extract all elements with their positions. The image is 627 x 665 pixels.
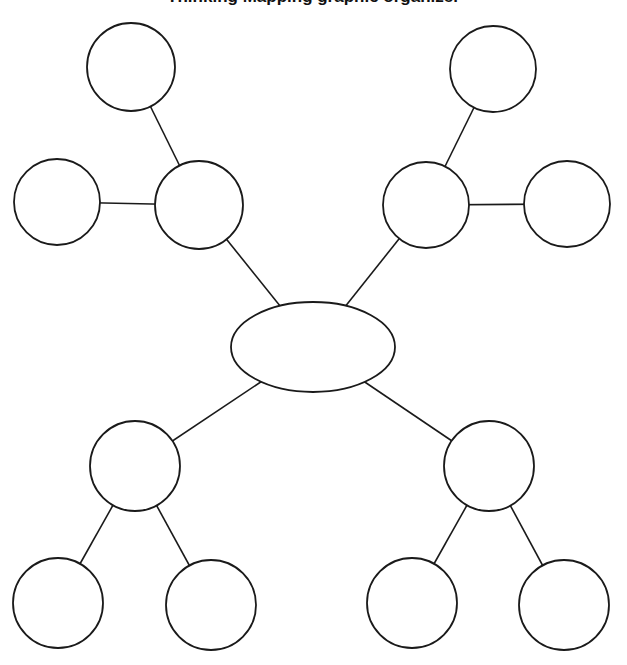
node-circle-upper-left-top[interactable] bbox=[87, 23, 175, 111]
node-circle-upper-right-hub[interactable] bbox=[383, 162, 469, 248]
node-circle-lower-right-b[interactable] bbox=[519, 560, 609, 650]
node-circle-upper-right-side[interactable] bbox=[524, 161, 610, 247]
node-circle-lower-left-hub[interactable] bbox=[90, 421, 180, 511]
node-circle-upper-left-hub[interactable] bbox=[155, 161, 243, 249]
node-circle-lower-right-hub[interactable] bbox=[444, 421, 534, 511]
node-circle-upper-right-top[interactable] bbox=[450, 26, 536, 112]
node-circle-lower-left-a[interactable] bbox=[13, 558, 103, 648]
mind-map-diagram bbox=[0, 0, 627, 665]
node-circle-lower-right-a[interactable] bbox=[367, 558, 457, 648]
node-shapes bbox=[13, 23, 610, 650]
central-topic-ellipse[interactable] bbox=[231, 302, 395, 392]
node-circle-lower-left-b[interactable] bbox=[166, 560, 256, 650]
node-circle-upper-left-side[interactable] bbox=[14, 159, 100, 245]
